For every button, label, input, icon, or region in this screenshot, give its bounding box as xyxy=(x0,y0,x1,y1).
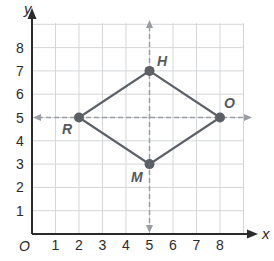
coordinate-plane: H O M R y x O 1 2 3 4 5 6 7 8 1 2 3 4 5 … xyxy=(0,0,274,261)
x-tick: 6 xyxy=(169,237,177,253)
x-tick: 3 xyxy=(99,237,107,253)
point-H xyxy=(145,66,155,76)
y-tick: 2 xyxy=(16,179,24,195)
y-tick: 7 xyxy=(16,63,24,79)
point-R xyxy=(74,113,84,123)
arrow-right-icon xyxy=(244,114,252,121)
y-tick: 8 xyxy=(16,40,24,56)
origin-label: O xyxy=(19,238,30,254)
x-tick: 1 xyxy=(52,237,60,253)
x-tick-labels: 1 2 3 4 5 6 7 8 xyxy=(52,237,225,253)
label-R: R xyxy=(62,121,73,137)
x-tick: 2 xyxy=(75,237,83,253)
y-tick: 4 xyxy=(16,133,24,149)
label-O: O xyxy=(224,95,235,111)
x-axis-arrow-icon xyxy=(247,230,258,239)
x-axis-label: x xyxy=(261,225,270,242)
y-tick-labels: 1 2 3 4 5 6 7 8 xyxy=(16,40,24,219)
label-M: M xyxy=(131,169,143,185)
point-M xyxy=(145,159,155,169)
y-tick: 5 xyxy=(16,110,24,126)
x-tick: 8 xyxy=(216,237,224,253)
arrow-down-icon xyxy=(146,225,153,233)
point-O xyxy=(215,113,225,123)
y-tick: 6 xyxy=(16,86,24,102)
y-tick: 3 xyxy=(16,156,24,172)
y-tick: 1 xyxy=(16,203,24,219)
x-tick: 7 xyxy=(193,237,201,253)
x-tick: 5 xyxy=(146,237,154,253)
label-H: H xyxy=(157,53,168,69)
arrow-left-icon xyxy=(33,114,41,121)
x-tick: 4 xyxy=(122,237,130,253)
